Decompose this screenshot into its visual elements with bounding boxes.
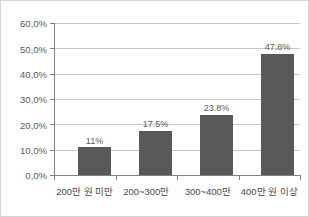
y-tick-label-50: 50,0%	[1, 45, 47, 55]
y-tick-label-40: 40,0%	[1, 70, 47, 80]
x-category-label-0: 200만 원 미만	[54, 187, 116, 197]
x-tick-mark-2	[177, 175, 178, 180]
x-category-label-2: 300~400만	[177, 187, 239, 197]
y-tick-label-60: 60,0%	[1, 19, 47, 29]
gridline-60	[54, 23, 300, 24]
bar-chart-figure: 60,0% 50,0% 40,0% 30,0% 20,0% 10,0% 0,0%…	[0, 0, 309, 217]
bar-3	[261, 54, 294, 175]
bar-value-label-3: 47.8%	[254, 43, 301, 52]
y-tick-label-10: 10,0%	[1, 146, 47, 156]
bar-value-label-2: 23.8%	[193, 104, 240, 113]
bar-1	[139, 131, 172, 175]
x-tick-mark-0	[54, 175, 55, 180]
y-tick-label-30: 30,0%	[1, 95, 47, 105]
x-tick-mark-3	[239, 175, 240, 180]
plot-area: 11% 17.5% 23.8% 47.8%	[54, 23, 300, 175]
x-category-label-3: 400만 원 이상	[239, 187, 301, 197]
bar-value-label-0: 11%	[71, 137, 118, 146]
bar-value-label-1: 17.5%	[132, 120, 179, 129]
x-tick-mark-1	[116, 175, 117, 180]
y-axis-line	[54, 23, 55, 176]
x-category-label-1: 200~300만	[116, 187, 178, 197]
bar-2	[200, 115, 233, 175]
bar-0	[78, 147, 111, 175]
y-tick-label-20: 20,0%	[1, 121, 47, 131]
y-tick-label-0: 0,0%	[1, 171, 47, 181]
y-axis-tick-labels: 60,0% 50,0% 40,0% 30,0% 20,0% 10,0% 0,0%	[1, 1, 49, 217]
x-tick-mark-4	[300, 175, 301, 180]
